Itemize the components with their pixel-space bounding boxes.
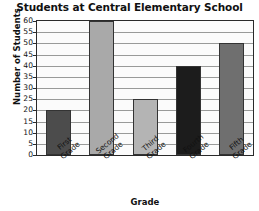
y-tick-label: 55 — [3, 28, 33, 36]
y-tick-label: 0 — [3, 151, 33, 159]
x-axis-tick-labels: FirstGradeSecondGradeThirdGradeFourthGra… — [36, 158, 254, 196]
x-axis-title: Grade — [36, 197, 254, 207]
y-tick-label: 25 — [3, 95, 33, 103]
y-tick-label: 15 — [3, 118, 33, 126]
chart-title: Students at Central Elementary School — [0, 1, 259, 13]
y-tick-label: 60 — [3, 17, 33, 25]
y-tick-label: 30 — [3, 84, 33, 92]
y-axis-tick-labels: 051015202530354045505560 — [0, 20, 36, 156]
y-tick-label: 5 — [3, 140, 33, 148]
y-tick-label: 50 — [3, 40, 33, 48]
y-tick-label: 35 — [3, 73, 33, 81]
y-tick-label: 10 — [3, 129, 33, 137]
y-tick-label: 20 — [3, 107, 33, 115]
chart-page: Students at Central Elementary School Nu… — [0, 0, 259, 211]
y-tick-label: 45 — [3, 51, 33, 59]
y-tick-label: 40 — [3, 62, 33, 70]
